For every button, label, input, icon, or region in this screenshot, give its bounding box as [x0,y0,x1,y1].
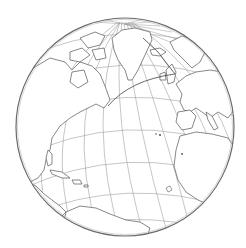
madeira [181,153,183,155]
azores-1 [155,133,157,135]
globe-map [0,0,246,248]
azores-2 [159,134,161,136]
hispaniola [72,180,82,184]
puerto-rico [84,185,88,187]
